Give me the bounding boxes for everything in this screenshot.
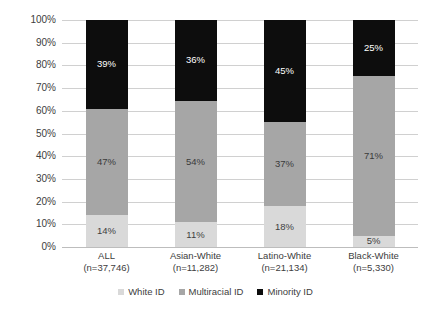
y-axis-tick-label: 40% xyxy=(0,151,56,161)
bar-group[interactable]: 11%54%36% xyxy=(175,20,217,247)
legend-swatch-icon xyxy=(179,289,185,295)
bar-segment[interactable]: 37% xyxy=(264,122,306,206)
bar-segment-value-label: 25% xyxy=(364,43,383,53)
bar-segment-value-label: 37% xyxy=(275,159,294,169)
bar-segment-value-label: 39% xyxy=(97,59,116,69)
bar-stack: 14%47%39% xyxy=(86,20,128,247)
x-axis-category-label: Black-White(n=5,330) xyxy=(319,250,429,274)
axis-baseline xyxy=(62,247,418,248)
legend-label: White ID xyxy=(128,286,164,297)
bar-segment[interactable]: 54% xyxy=(175,101,217,222)
bar-group[interactable]: 18%37%45% xyxy=(264,20,306,247)
bar-segment-value-label: 11% xyxy=(186,230,204,240)
y-axis-tick-label: 0% xyxy=(0,242,56,252)
bar-segment[interactable]: 14% xyxy=(86,215,128,247)
bar-segment-value-label: 47% xyxy=(97,157,116,167)
bar-segment-value-label: 36% xyxy=(186,55,205,65)
legend-item[interactable]: Minority ID xyxy=(257,286,312,297)
bar-segment[interactable]: 47% xyxy=(86,109,128,216)
bar-segment-value-label: 71% xyxy=(364,151,383,161)
chart-legend: White IDMultiracial IDMinority ID xyxy=(0,286,431,297)
bar-group[interactable]: 5%71%25% xyxy=(353,20,395,247)
y-axis-tick-label: 70% xyxy=(0,83,56,93)
bar-segment[interactable]: 45% xyxy=(264,20,306,122)
bar-segment-value-label: 45% xyxy=(275,66,294,76)
bar-segment[interactable]: 18% xyxy=(264,206,306,247)
legend-swatch-icon xyxy=(118,289,124,295)
y-axis-tick-label: 80% xyxy=(0,60,56,70)
bar-stack: 18%37%45% xyxy=(264,20,306,247)
x-axis: ALL(n=37,746)Asian-White(n=11,282)Latino… xyxy=(62,250,418,278)
y-axis-tick-label: 50% xyxy=(0,129,56,139)
y-axis-tick-label: 30% xyxy=(0,174,56,184)
bar-group[interactable]: 14%47%39% xyxy=(86,20,128,247)
bar-segment[interactable]: 5% xyxy=(353,236,395,247)
legend-label: Minority ID xyxy=(267,286,312,297)
bar-segment[interactable]: 36% xyxy=(175,20,217,101)
stacked-bar-chart: 0%10%20%30%40%50%60%70%80%90%100% 14%47%… xyxy=(0,0,431,309)
category-sample-size: (n=5,330) xyxy=(319,262,429,274)
category-name: Black-White xyxy=(319,250,429,262)
bar-segment[interactable]: 71% xyxy=(353,76,395,236)
bar-segment[interactable]: 25% xyxy=(353,20,395,76)
bar-segment-value-label: 54% xyxy=(186,157,205,167)
y-axis-tick-label: 20% xyxy=(0,197,56,207)
bar-segment-value-label: 14% xyxy=(97,226,116,236)
legend-label: Multiracial ID xyxy=(189,286,244,297)
legend-item[interactable]: White ID xyxy=(118,286,164,297)
plot-area: 14%47%39%11%54%36%18%37%45%5%71%25% xyxy=(62,20,418,247)
y-axis-tick-label: 10% xyxy=(0,219,56,229)
legend-swatch-icon xyxy=(257,289,263,295)
bar-stack: 11%54%36% xyxy=(175,20,217,247)
bar-segment-value-label: 5% xyxy=(367,236,381,246)
legend-item[interactable]: Multiracial ID xyxy=(179,286,244,297)
y-axis-tick-label: 100% xyxy=(0,15,56,25)
bar-segment[interactable]: 39% xyxy=(86,20,128,109)
bar-segment[interactable]: 11% xyxy=(175,222,217,247)
y-axis: 0%10%20%30%40%50%60%70%80%90%100% xyxy=(0,20,56,247)
bar-stack: 5%71%25% xyxy=(353,20,395,247)
y-axis-tick-label: 60% xyxy=(0,106,56,116)
y-axis-tick-label: 90% xyxy=(0,38,56,48)
bar-segment-value-label: 18% xyxy=(275,222,294,232)
